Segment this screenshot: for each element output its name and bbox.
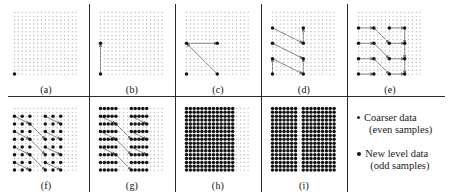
dot-light (161, 27, 162, 28)
dot-light (244, 12, 245, 13)
dot-dark (309, 111, 313, 115)
dot-dark (271, 122, 275, 126)
dot-light (29, 35, 30, 36)
dot-light (146, 50, 147, 51)
dot-light (326, 43, 327, 44)
dot-light (72, 31, 73, 32)
dot-light (201, 39, 202, 40)
dot-light (41, 66, 42, 67)
dot-light (142, 112, 143, 113)
dot-dark (185, 134, 189, 138)
dot-light (146, 54, 147, 55)
dot-light (107, 46, 108, 47)
dot-dark (192, 111, 196, 115)
dot-light (33, 62, 34, 63)
dot-light (127, 112, 128, 113)
dot-dark (332, 138, 336, 142)
dot-light (29, 50, 30, 51)
dot-light (416, 50, 417, 51)
dot-light (362, 54, 363, 55)
dot-light (142, 54, 143, 55)
dot-light (134, 19, 135, 20)
dot-light (41, 70, 42, 71)
dot-dark (223, 111, 227, 115)
dot-light (48, 154, 49, 155)
dot-light (419, 54, 420, 55)
dot-light (377, 19, 378, 20)
dot-light (146, 150, 147, 151)
dot-light (123, 119, 124, 120)
dot-light (48, 62, 49, 63)
dot-light (134, 135, 135, 136)
dot-dark (192, 107, 196, 111)
dot-light (154, 19, 155, 20)
dot-light (134, 46, 135, 47)
dot-light (244, 62, 245, 63)
dot-light (247, 139, 248, 140)
dot-light (299, 154, 300, 155)
dot-dark (28, 130, 32, 134)
dot-light (119, 108, 120, 109)
dot-light (232, 12, 233, 13)
dot-light (326, 23, 327, 24)
dot-light (330, 27, 331, 28)
panel-g-caption: (g) (96, 180, 168, 191)
dot-light (158, 158, 159, 159)
dot-light (158, 131, 159, 132)
dot-light (21, 166, 22, 167)
dot-light (123, 27, 124, 28)
dot-light (115, 50, 116, 51)
dot-light (33, 150, 34, 151)
dot-dark (219, 107, 223, 111)
dot-dark (278, 130, 282, 134)
dot-dark (208, 161, 212, 165)
dot-dark (282, 157, 286, 161)
dot-light (52, 150, 53, 151)
dot-dark (99, 114, 103, 118)
dot-light (217, 54, 218, 55)
dot-light (134, 12, 135, 13)
dot-light (299, 150, 300, 151)
dot-light (64, 16, 65, 17)
dot-light (21, 70, 22, 71)
dot-light (119, 112, 120, 113)
dot-light (369, 66, 370, 67)
dot-light (396, 46, 397, 47)
dot-light (291, 19, 292, 20)
dot-dark (317, 111, 321, 115)
dot-light (48, 58, 49, 59)
dot-light (190, 23, 191, 24)
dot-light (75, 166, 76, 167)
dot-light (33, 123, 34, 124)
dot-light (419, 12, 420, 13)
dot-light (56, 62, 57, 63)
dot-light (326, 16, 327, 17)
dot-light (64, 142, 65, 143)
dot-light (224, 39, 225, 40)
dot-light (291, 66, 292, 67)
dot-dark (208, 111, 212, 115)
dot-light (161, 58, 162, 59)
dot-light (104, 43, 105, 44)
dot-light (314, 50, 315, 51)
dot-dark (196, 122, 200, 126)
dot-light (201, 27, 202, 28)
dot-light (45, 158, 46, 159)
dot-dark (212, 114, 216, 118)
dot-light (314, 12, 315, 13)
dot-light (111, 127, 112, 128)
dot-dark (192, 130, 196, 134)
dot-dark (357, 72, 361, 76)
dot-dark (141, 138, 145, 142)
dot-dark (290, 149, 294, 153)
dot-light (146, 35, 147, 36)
dot-light (14, 54, 15, 55)
dot-dark (302, 111, 306, 115)
dot-light (138, 62, 139, 63)
dot-light (14, 35, 15, 36)
dot-light (228, 12, 229, 13)
dot-dark (133, 161, 137, 165)
dot-light (220, 35, 221, 36)
dot-light (228, 16, 229, 17)
dot-light (72, 62, 73, 63)
